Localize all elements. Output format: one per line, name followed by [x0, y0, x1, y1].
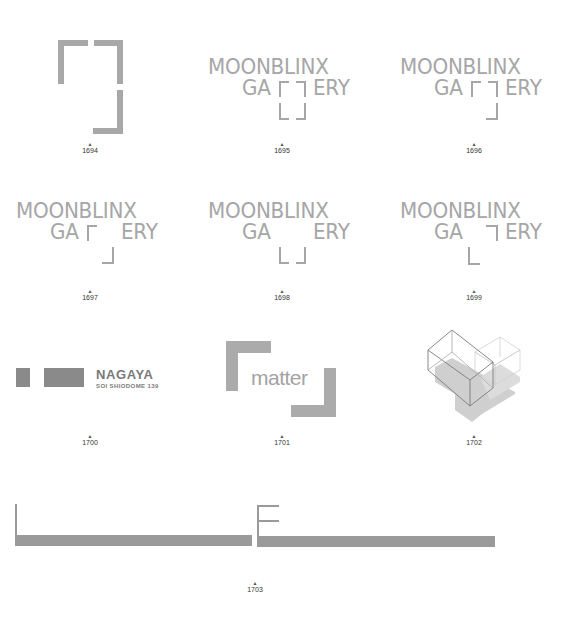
matter-word: matter — [251, 366, 308, 390]
letter-e-top — [257, 505, 279, 507]
nagaya-title: NAGAYA — [96, 367, 154, 382]
gallery-right: ERY — [505, 78, 542, 98]
moonblinx-line1: MOONBLINX — [16, 201, 137, 221]
caption-1698: ▲ 1698 — [252, 288, 312, 302]
caption-1702: ▲ 1702 — [444, 433, 504, 447]
letter-l-stem — [15, 504, 17, 536]
l4-h — [102, 262, 114, 264]
gallery-left: GA — [242, 78, 271, 98]
l2-v — [304, 81, 306, 97]
isometric-boxes-graphic — [420, 322, 540, 427]
nagaya-subtitle: SOI SHIODOME 139 — [96, 383, 159, 389]
matter-corner-bottom-h — [291, 405, 336, 417]
l4-h — [296, 118, 306, 120]
gallery-right: ERY — [505, 222, 542, 242]
l4-h — [296, 262, 306, 264]
l1-v — [471, 81, 473, 97]
moonblinx-line1: MOONBLINX — [208, 201, 329, 221]
gallery-left: GA — [242, 222, 271, 242]
bar-right — [257, 536, 495, 547]
gallery-left: GA — [434, 78, 463, 98]
gallery-right: ERY — [121, 222, 158, 242]
gallery-left: GA — [434, 222, 463, 242]
l3-h — [468, 263, 480, 265]
caption-1699: ▲ 1699 — [444, 288, 504, 302]
bar-left — [15, 535, 252, 546]
nagaya-block-small — [16, 368, 30, 387]
caption-1694: ▲ 1694 — [60, 141, 120, 155]
gallery-right: ERY — [313, 78, 350, 98]
l3-h — [279, 118, 289, 120]
bracket-bottom-right-h — [93, 128, 123, 134]
letter-e-middle — [257, 520, 279, 522]
gallery-left: GA — [50, 222, 79, 242]
caption-1697: ▲ 1697 — [60, 288, 120, 302]
caption-1695: ▲ 1695 — [252, 141, 312, 155]
bracket-top-left-v — [58, 40, 64, 84]
matter-corner-top-v — [226, 341, 238, 391]
l1-v — [279, 81, 281, 97]
l2-v — [496, 81, 498, 97]
gallery-right: ERY — [313, 222, 350, 242]
moonblinx-line1: MOONBLINX — [400, 57, 521, 77]
nagaya-block-large — [44, 368, 84, 387]
caption-1703: ▲ 1703 — [225, 580, 285, 594]
l1-v — [87, 225, 89, 241]
l2-v — [496, 225, 498, 241]
caption-1696: ▲ 1696 — [444, 141, 504, 155]
caption-1701: ▲ 1701 — [252, 433, 312, 447]
caption-1700: ▲ 1700 — [60, 433, 120, 447]
l4-h — [486, 118, 498, 120]
bracket-top-right-v — [117, 40, 123, 84]
l3-h — [279, 262, 289, 264]
moonblinx-line1: MOONBLINX — [208, 57, 329, 77]
moonblinx-line1: MOONBLINX — [400, 201, 521, 221]
